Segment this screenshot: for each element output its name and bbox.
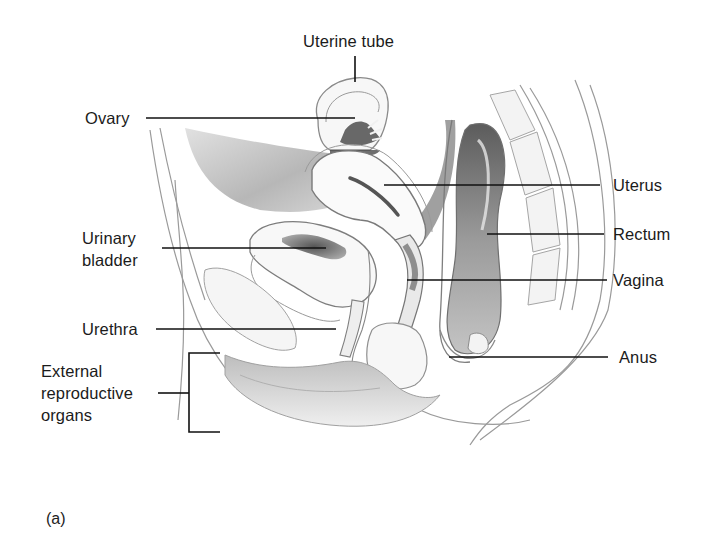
label-uterine-tube: Uterine tube xyxy=(303,31,394,51)
label-urinary-bladder-line1: Urinary xyxy=(82,227,138,249)
anatomy-figure: Uterine tube Ovary Uterus Urinary bladde… xyxy=(0,0,716,537)
label-vagina: Vagina xyxy=(613,270,664,290)
label-urethra: Urethra xyxy=(82,319,138,339)
label-urinary-bladder-line2: bladder xyxy=(82,249,138,271)
label-anus: Anus xyxy=(619,347,657,367)
label-rectum: Rectum xyxy=(613,224,670,244)
label-uterus: Uterus xyxy=(613,175,662,195)
label-external-line2: reproductive xyxy=(41,382,133,404)
label-external-line3: organs xyxy=(41,404,133,426)
leader-external-bracket xyxy=(189,353,220,432)
pubic-bone xyxy=(204,268,296,350)
label-external-line1: External xyxy=(41,360,133,382)
urethra-shape xyxy=(340,300,364,357)
label-urinary-bladder: Urinary bladder xyxy=(82,227,138,271)
rectum-shape xyxy=(447,124,504,354)
panel-label: (a) xyxy=(46,510,66,528)
label-external-reproductive-organs: External reproductive organs xyxy=(41,360,133,426)
label-ovary: Ovary xyxy=(85,108,130,128)
